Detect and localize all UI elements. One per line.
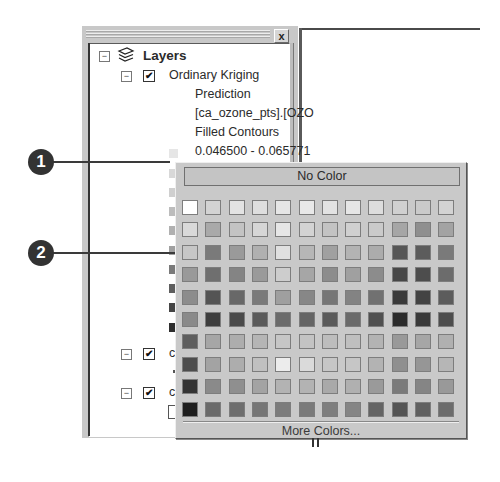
legend-swatch[interactable] bbox=[169, 149, 178, 158]
color-swatch[interactable] bbox=[415, 334, 431, 349]
color-swatch[interactable] bbox=[182, 267, 198, 282]
color-swatch[interactable] bbox=[438, 267, 454, 282]
color-swatch[interactable] bbox=[229, 357, 245, 372]
color-swatch[interactable] bbox=[438, 312, 454, 327]
color-swatch[interactable] bbox=[252, 357, 268, 372]
color-swatch[interactable] bbox=[205, 245, 221, 260]
color-swatch[interactable] bbox=[392, 357, 408, 372]
color-swatch[interactable] bbox=[252, 312, 268, 327]
color-swatch[interactable] bbox=[275, 222, 291, 237]
color-swatch[interactable] bbox=[345, 402, 361, 417]
color-swatch[interactable] bbox=[368, 245, 384, 260]
color-swatch[interactable] bbox=[368, 200, 384, 215]
no-color-button[interactable]: No Color bbox=[184, 167, 460, 186]
color-swatch[interactable] bbox=[275, 312, 291, 327]
color-swatch[interactable] bbox=[438, 379, 454, 394]
color-swatch[interactable] bbox=[415, 402, 431, 417]
color-swatch[interactable] bbox=[368, 267, 384, 282]
color-swatch[interactable] bbox=[392, 379, 408, 394]
color-swatch[interactable] bbox=[392, 334, 408, 349]
color-swatch[interactable] bbox=[205, 402, 221, 417]
layer-2-visibility-checkbox[interactable]: ✔ bbox=[143, 348, 155, 360]
color-swatch[interactable] bbox=[182, 402, 198, 417]
color-swatch[interactable] bbox=[345, 245, 361, 260]
color-swatch[interactable] bbox=[322, 402, 338, 417]
color-swatch[interactable] bbox=[392, 290, 408, 305]
color-swatch[interactable] bbox=[182, 222, 198, 237]
color-swatch[interactable] bbox=[205, 334, 221, 349]
color-swatch[interactable] bbox=[205, 200, 221, 215]
color-swatch[interactable] bbox=[275, 402, 291, 417]
color-swatch[interactable] bbox=[252, 222, 268, 237]
color-swatch[interactable] bbox=[299, 357, 315, 372]
color-swatch[interactable] bbox=[392, 245, 408, 260]
color-swatch[interactable] bbox=[345, 222, 361, 237]
color-swatch[interactable] bbox=[275, 200, 291, 215]
color-swatch[interactable] bbox=[205, 357, 221, 372]
color-swatch[interactable] bbox=[182, 290, 198, 305]
color-swatch[interactable] bbox=[322, 245, 338, 260]
color-swatch[interactable] bbox=[392, 222, 408, 237]
kriging-layer-visibility-checkbox[interactable]: ✔ bbox=[143, 70, 155, 82]
color-swatch[interactable] bbox=[182, 357, 198, 372]
color-swatch[interactable] bbox=[275, 267, 291, 282]
color-swatch[interactable] bbox=[322, 222, 338, 237]
color-swatch[interactable] bbox=[299, 245, 315, 260]
color-swatch[interactable] bbox=[392, 312, 408, 327]
color-swatch[interactable] bbox=[392, 267, 408, 282]
color-swatch[interactable] bbox=[368, 379, 384, 394]
color-swatch[interactable] bbox=[415, 200, 431, 215]
color-swatch[interactable] bbox=[368, 357, 384, 372]
color-swatch[interactable] bbox=[368, 312, 384, 327]
color-swatch[interactable] bbox=[229, 290, 245, 305]
color-swatch[interactable] bbox=[345, 267, 361, 282]
color-swatch[interactable] bbox=[205, 222, 221, 237]
color-swatch[interactable] bbox=[438, 357, 454, 372]
color-swatch[interactable] bbox=[252, 379, 268, 394]
color-swatch[interactable] bbox=[299, 334, 315, 349]
color-swatch[interactable] bbox=[275, 334, 291, 349]
color-swatch[interactable] bbox=[345, 312, 361, 327]
color-swatch[interactable] bbox=[415, 357, 431, 372]
kriging-layer-label[interactable]: Ordinary Kriging bbox=[169, 68, 259, 82]
color-swatch[interactable] bbox=[299, 379, 315, 394]
color-swatch[interactable] bbox=[368, 334, 384, 349]
color-swatch[interactable] bbox=[438, 334, 454, 349]
color-swatch[interactable] bbox=[229, 334, 245, 349]
color-swatch[interactable] bbox=[252, 267, 268, 282]
legend-class-label[interactable]: 0.046500 - 0.065771 bbox=[195, 144, 310, 158]
color-swatch[interactable] bbox=[368, 222, 384, 237]
color-swatch[interactable] bbox=[415, 290, 431, 305]
panel-drag-handle[interactable] bbox=[86, 30, 270, 39]
layers-root-label[interactable]: Layers bbox=[143, 48, 187, 63]
color-swatch[interactable] bbox=[415, 222, 431, 237]
color-swatch[interactable] bbox=[205, 312, 221, 327]
color-swatch[interactable] bbox=[229, 245, 245, 260]
color-swatch[interactable] bbox=[322, 357, 338, 372]
layer-3-expander[interactable]: − bbox=[121, 388, 132, 399]
color-swatch[interactable] bbox=[392, 402, 408, 417]
color-swatch[interactable] bbox=[299, 402, 315, 417]
color-swatch[interactable] bbox=[322, 267, 338, 282]
color-swatch[interactable] bbox=[252, 334, 268, 349]
color-swatch[interactable] bbox=[322, 200, 338, 215]
layer-3-visibility-checkbox[interactable]: ✔ bbox=[143, 387, 155, 399]
color-swatch[interactable] bbox=[182, 379, 198, 394]
color-swatch[interactable] bbox=[205, 290, 221, 305]
color-swatch[interactable] bbox=[345, 290, 361, 305]
color-swatch[interactable] bbox=[345, 379, 361, 394]
color-swatch[interactable] bbox=[322, 379, 338, 394]
color-swatch[interactable] bbox=[275, 290, 291, 305]
color-swatch[interactable] bbox=[182, 245, 198, 260]
color-swatch[interactable] bbox=[415, 379, 431, 394]
color-swatch[interactable] bbox=[438, 200, 454, 215]
color-swatch[interactable] bbox=[299, 222, 315, 237]
color-swatch[interactable] bbox=[252, 245, 268, 260]
color-swatch[interactable] bbox=[345, 200, 361, 215]
color-swatch[interactable] bbox=[438, 402, 454, 417]
color-swatch[interactable] bbox=[345, 357, 361, 372]
color-swatch[interactable] bbox=[322, 334, 338, 349]
color-swatch[interactable] bbox=[275, 357, 291, 372]
color-swatch[interactable] bbox=[229, 222, 245, 237]
color-swatch[interactable] bbox=[229, 267, 245, 282]
